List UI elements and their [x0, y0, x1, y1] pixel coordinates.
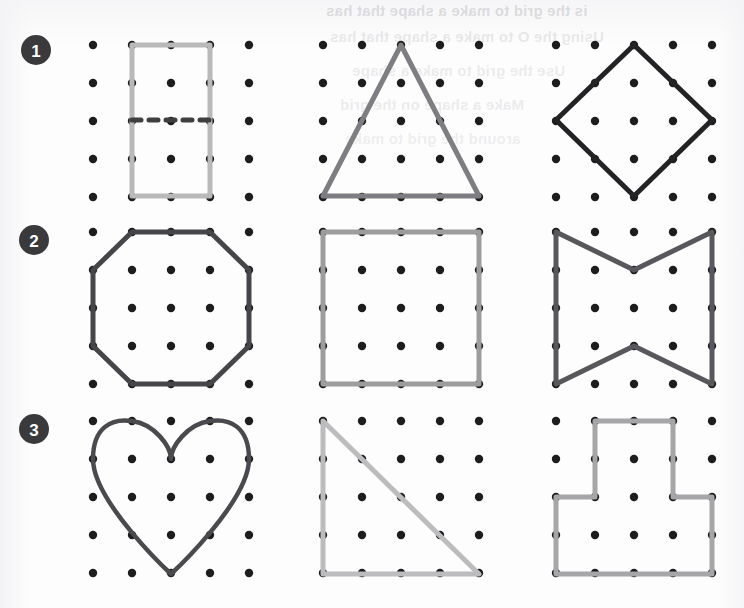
peg — [128, 493, 136, 501]
peg — [206, 342, 214, 350]
peg — [630, 155, 638, 163]
peg — [475, 417, 483, 425]
peg — [89, 531, 97, 539]
peg — [167, 342, 175, 350]
peg — [475, 455, 483, 463]
peg — [358, 304, 366, 312]
peg — [708, 193, 716, 201]
exercise-badge-2: 2 — [19, 225, 49, 255]
peg — [708, 41, 716, 49]
peg — [475, 79, 483, 87]
peg — [167, 266, 175, 274]
peg — [436, 304, 444, 312]
peg — [245, 531, 253, 539]
peg — [475, 155, 483, 163]
peg — [319, 117, 327, 125]
peg — [245, 79, 253, 87]
peg — [89, 79, 97, 87]
peg — [319, 155, 327, 163]
peg — [167, 155, 175, 163]
peg — [436, 455, 444, 463]
peg — [708, 155, 716, 163]
peg — [436, 41, 444, 49]
peg — [591, 117, 599, 125]
peg — [436, 493, 444, 501]
peg — [669, 531, 677, 539]
peg — [552, 455, 560, 463]
peg — [552, 193, 560, 201]
peg — [245, 228, 253, 236]
peg — [358, 155, 366, 163]
peg — [397, 304, 405, 312]
peg-grid-6 — [552, 228, 716, 388]
peg — [552, 155, 560, 163]
peg — [245, 193, 253, 201]
peg — [206, 304, 214, 312]
peg — [167, 493, 175, 501]
peg — [89, 380, 97, 388]
peg — [319, 79, 327, 87]
peg — [669, 193, 677, 201]
peg — [591, 228, 599, 236]
peg — [708, 455, 716, 463]
shape-outline-right-triangle[interactable] — [323, 421, 479, 574]
peg — [167, 531, 175, 539]
peg — [436, 266, 444, 274]
peg — [245, 493, 253, 501]
peg — [591, 304, 599, 312]
shape-rectangle-with-dashed-midline[interactable] — [132, 45, 210, 196]
peg — [89, 417, 97, 425]
peg — [358, 342, 366, 350]
peg-grid-5 — [319, 228, 483, 388]
peg — [669, 228, 677, 236]
peg — [206, 266, 214, 274]
peg — [206, 493, 214, 501]
peg — [630, 117, 638, 125]
exercise-badge-1: 1 — [21, 35, 51, 65]
peg — [89, 493, 97, 501]
peg — [630, 228, 638, 236]
badge-number: 1 — [31, 42, 40, 61]
peg — [206, 455, 214, 463]
peg — [669, 380, 677, 388]
peg — [128, 342, 136, 350]
peg — [630, 493, 638, 501]
peg — [358, 417, 366, 425]
peg — [475, 41, 483, 49]
peg — [630, 455, 638, 463]
peg — [319, 41, 327, 49]
exercise-badges-layer: 123 — [19, 35, 51, 444]
peg — [630, 380, 638, 388]
exercise-badge-3: 3 — [19, 414, 49, 444]
peg — [552, 417, 560, 425]
peg — [397, 117, 405, 125]
peg — [245, 417, 253, 425]
peg — [669, 342, 677, 350]
peg — [436, 342, 444, 350]
peg — [167, 79, 175, 87]
peg — [708, 417, 716, 425]
peg — [89, 569, 97, 577]
peg — [245, 41, 253, 49]
peg — [552, 41, 560, 49]
peg — [591, 193, 599, 201]
peg — [89, 41, 97, 49]
peg — [591, 531, 599, 539]
peg — [397, 79, 405, 87]
peg — [708, 79, 716, 87]
peg — [245, 569, 253, 577]
shape-right-triangle[interactable] — [323, 421, 479, 574]
peg — [167, 417, 175, 425]
geoboard-canvas: 123 — [0, 0, 744, 608]
peg — [475, 117, 483, 125]
peg — [669, 266, 677, 274]
peg — [358, 531, 366, 539]
peg — [128, 266, 136, 274]
peg — [397, 155, 405, 163]
peg — [89, 228, 97, 236]
peg — [89, 155, 97, 163]
peg — [358, 493, 366, 501]
badge-number: 3 — [29, 421, 38, 440]
peg — [358, 41, 366, 49]
peg — [669, 304, 677, 312]
